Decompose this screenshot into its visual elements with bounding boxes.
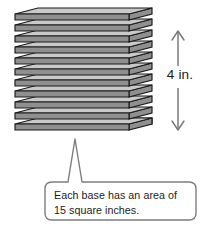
- callout-line-1: Each base has an area of: [54, 188, 190, 203]
- sheet-7: [15, 74, 152, 86]
- sheet-front: [15, 113, 129, 119]
- sheet-11: [15, 118, 152, 130]
- figure-root: 4 in. Each base has an area of 15 square…: [0, 0, 202, 227]
- sheet-5: [15, 52, 152, 64]
- sheet-front: [15, 69, 129, 75]
- sheet-front: [15, 47, 129, 53]
- stack-of-sheets: [15, 8, 152, 130]
- sheet-front: [15, 25, 129, 31]
- sheet-10: [15, 107, 152, 119]
- sheet-9: [15, 96, 152, 108]
- height-dimension-label: 4 in.: [158, 67, 202, 82]
- sheet-front: [15, 91, 129, 97]
- sheet-front: [15, 58, 129, 64]
- sheet-4: [15, 41, 152, 53]
- sheet-6: [15, 63, 152, 75]
- callout-line-2: 15 square inches.: [54, 203, 190, 218]
- sheet-face-top: [15, 8, 152, 14]
- sheet-front: [15, 36, 129, 42]
- sheet-front: [15, 80, 129, 86]
- sheet-front: [15, 124, 129, 130]
- sheet-front: [15, 102, 129, 108]
- sheet-3: [15, 30, 152, 42]
- sheet-2: [15, 19, 152, 31]
- sheet-front: [15, 14, 129, 20]
- callout-text-block: Each base has an area of 15 square inche…: [54, 188, 190, 217]
- sheet-8: [15, 85, 152, 97]
- sheet-1-top: [15, 8, 152, 20]
